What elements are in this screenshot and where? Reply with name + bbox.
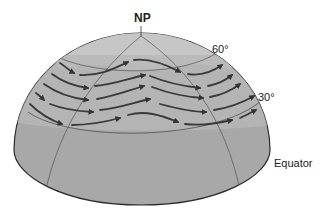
latitude-30-label: 30° <box>258 92 275 103</box>
hemisphere-diagram <box>0 0 320 216</box>
north-pole-label: NP <box>134 12 151 24</box>
equator-label: Equator <box>274 158 313 169</box>
latitude-60-label: 60° <box>212 44 229 55</box>
